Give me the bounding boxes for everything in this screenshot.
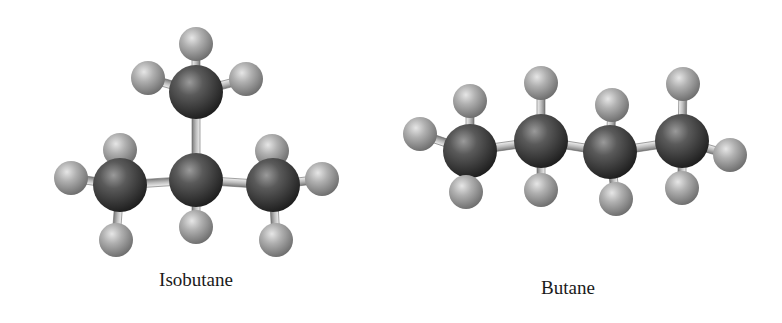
- carbon-atom: [443, 124, 497, 178]
- carbon-atom: [169, 65, 223, 119]
- hydrogen-atom: [713, 138, 747, 172]
- carbon-atom: [169, 153, 223, 207]
- isobutane-label: Isobutane: [159, 269, 233, 291]
- hydrogen-atom: [229, 62, 263, 96]
- hydrogen-atom: [666, 67, 700, 101]
- hydrogen-atom: [403, 117, 437, 151]
- carbon-atom: [655, 114, 709, 168]
- hydrogen-atom: [179, 27, 213, 61]
- hydrogen-atom: [524, 66, 558, 100]
- butane-model: [403, 66, 747, 216]
- hydrogen-atom: [599, 182, 633, 216]
- carbon-atom: [93, 158, 147, 212]
- hydrogen-atom: [305, 162, 339, 196]
- hydrogen-atom: [131, 61, 165, 95]
- hydrogen-atom: [524, 173, 558, 207]
- hydrogen-atom: [453, 84, 487, 118]
- hydrogen-atom: [595, 88, 629, 122]
- carbon-atom: [514, 114, 568, 168]
- hydrogen-atom: [54, 161, 88, 195]
- carbon-atom: [583, 125, 637, 179]
- isobutane-model: [54, 27, 339, 257]
- hydrogen-atom: [179, 210, 213, 244]
- hydrogen-atom: [665, 171, 699, 205]
- butane-label: Butane: [541, 277, 595, 299]
- hydrogen-atom: [449, 175, 483, 209]
- carbon-atom: [246, 158, 300, 212]
- molecule-diagram: [0, 0, 782, 323]
- hydrogen-atom: [259, 223, 293, 257]
- hydrogen-atom: [99, 223, 133, 257]
